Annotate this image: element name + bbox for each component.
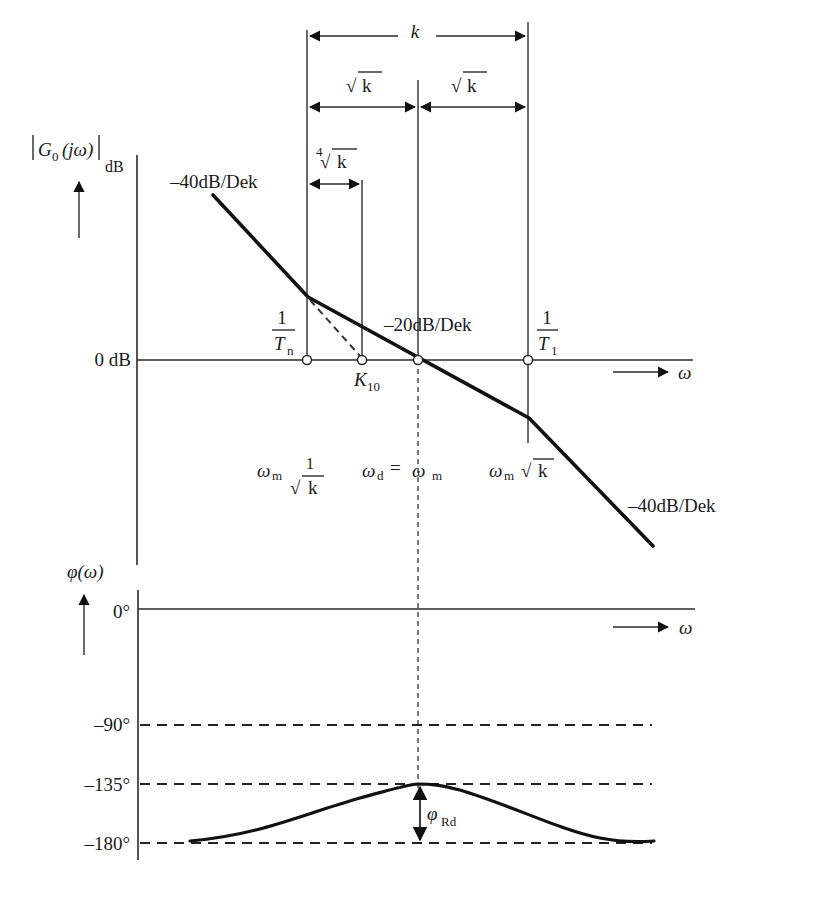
svg-text:0: 0 bbox=[52, 149, 59, 164]
magnitude-plot: G 0 (jω) dB 0 dB ω –40dB/Dek –20dB/Dek –… bbox=[33, 135, 716, 790]
svg-text:K: K bbox=[353, 369, 368, 390]
tick-minus180: –180° bbox=[83, 833, 130, 854]
slope-mid-label: –20dB/Dek bbox=[383, 314, 472, 335]
freq-center-label: ω d = ω m bbox=[362, 457, 442, 483]
dim-sqrtk-right-label: √ k bbox=[451, 72, 487, 96]
slope-high-label: –40dB/Dek bbox=[627, 495, 716, 516]
svg-text:k: k bbox=[308, 477, 318, 498]
svg-text:m: m bbox=[272, 468, 282, 483]
svg-text:ω: ω bbox=[362, 460, 375, 481]
phase-margin-label: φ Rd bbox=[427, 803, 457, 829]
node-tn bbox=[303, 356, 312, 365]
tick-minus90: –90° bbox=[93, 714, 130, 735]
zero-db-label: 0 dB bbox=[95, 349, 131, 370]
svg-text:1: 1 bbox=[551, 343, 558, 358]
svg-text:ω: ω bbox=[257, 460, 270, 481]
svg-text:dB: dB bbox=[105, 158, 124, 175]
magnitude-asymptote bbox=[213, 195, 653, 546]
dim-sqrtk-left-label: √ k bbox=[346, 72, 382, 96]
svg-text:√: √ bbox=[451, 75, 462, 96]
freq-left-label: ω m 1 √ k bbox=[257, 455, 324, 498]
svg-text:1: 1 bbox=[277, 307, 287, 328]
svg-text:=: = bbox=[390, 457, 401, 478]
node-k10 bbox=[358, 356, 367, 365]
freq-right-label: ω m √ k bbox=[489, 459, 554, 483]
asymptote-extension bbox=[310, 300, 360, 356]
svg-text:ω: ω bbox=[489, 460, 502, 481]
svg-text:√: √ bbox=[320, 151, 331, 172]
magnitude-omega-label: ω bbox=[678, 362, 691, 383]
node-crossover bbox=[414, 356, 423, 365]
phase-plot: φ(ω) ω 0° –90° –135° –180° φ Rd bbox=[67, 561, 695, 860]
svg-text:√: √ bbox=[521, 460, 532, 481]
svg-text:10: 10 bbox=[367, 379, 380, 394]
phase-axis-label: φ(ω) bbox=[67, 561, 104, 583]
svg-text:1: 1 bbox=[306, 455, 314, 472]
slope-low-label: –40dB/Dek bbox=[169, 171, 258, 192]
magnitude-axis-label: G 0 (jω) dB bbox=[33, 135, 124, 175]
svg-text:G: G bbox=[38, 139, 52, 160]
phase-omega-label: ω bbox=[679, 617, 692, 638]
svg-text:φ: φ bbox=[427, 803, 438, 824]
corner-tn-label: 1 T n bbox=[272, 307, 295, 358]
svg-text:ω: ω bbox=[412, 460, 425, 481]
svg-text:T: T bbox=[538, 333, 550, 354]
svg-text:k: k bbox=[467, 75, 477, 96]
svg-text:k: k bbox=[362, 75, 372, 96]
dim-k-label: k bbox=[411, 21, 420, 42]
tick-0: 0° bbox=[113, 601, 130, 622]
svg-text:k: k bbox=[538, 460, 548, 481]
svg-text:d: d bbox=[377, 468, 384, 483]
svg-text:k: k bbox=[337, 151, 347, 172]
svg-text:Rd: Rd bbox=[441, 814, 457, 829]
svg-text:n: n bbox=[287, 343, 294, 358]
k10-label: K 10 bbox=[353, 369, 380, 394]
corner-t1-label: 1 T 1 bbox=[537, 307, 558, 358]
tick-minus135: –135° bbox=[83, 774, 130, 795]
svg-text:(jω): (jω) bbox=[62, 139, 93, 161]
svg-text:m: m bbox=[504, 468, 514, 483]
svg-text:√: √ bbox=[290, 477, 301, 498]
svg-text:√: √ bbox=[346, 75, 357, 96]
phase-curve bbox=[190, 784, 654, 842]
svg-text:m: m bbox=[432, 468, 442, 483]
bode-diagram: k √ k √ k 4 √ k G 0 (j bbox=[0, 0, 831, 898]
dim-fourthroot-label: 4 √ k bbox=[316, 144, 357, 172]
node-t1 bbox=[524, 356, 533, 365]
svg-text:1: 1 bbox=[542, 307, 552, 328]
svg-text:T: T bbox=[274, 333, 286, 354]
